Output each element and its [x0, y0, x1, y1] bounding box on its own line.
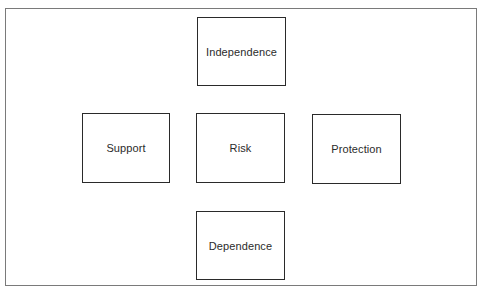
- node-support: Support: [82, 113, 170, 183]
- node-dependence: Dependence: [196, 211, 285, 280]
- node-support-label: Support: [106, 142, 145, 154]
- node-independence-label: Independence: [206, 46, 277, 58]
- node-risk-label: Risk: [230, 142, 252, 154]
- node-independence: Independence: [197, 17, 286, 86]
- node-protection-label: Protection: [331, 143, 382, 155]
- node-dependence-label: Dependence: [209, 240, 272, 252]
- node-protection: Protection: [312, 114, 401, 184]
- node-risk: Risk: [196, 113, 285, 183]
